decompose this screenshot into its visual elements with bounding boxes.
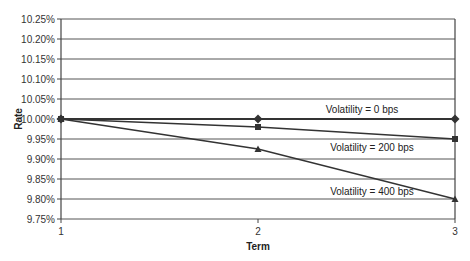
series-labels: Volatility = 0 bpsVolatility = 200 bpsVo… (326, 104, 414, 197)
series-label: Volatility = 200 bps (330, 142, 414, 153)
y-tick-label: 9.95% (27, 134, 55, 145)
x-tick-label: 2 (255, 226, 261, 237)
diamond-marker (451, 115, 460, 124)
series-diamond (57, 115, 460, 124)
y-tick-label: 10.15% (21, 54, 55, 65)
x-tick-label: 3 (452, 226, 458, 237)
y-tick-label: 10.10% (21, 74, 55, 85)
series-label: Volatility = 400 bps (330, 186, 414, 197)
series-label: Volatility = 0 bps (326, 104, 399, 115)
x-tick-label: 1 (58, 226, 64, 237)
square-marker (255, 124, 261, 130)
x-axis-title: Term (246, 241, 270, 252)
y-axis-ticks: 9.75%9.80%9.85%9.90%9.95%10.00%10.05%10.… (21, 14, 55, 225)
y-axis-title: Rate (13, 108, 24, 130)
y-tick-label: 10.05% (21, 94, 55, 105)
y-tick-label: 9.75% (27, 214, 55, 225)
square-marker (452, 136, 458, 142)
rate-vs-term-chart: 9.75%9.80%9.85%9.90%9.95%10.00%10.05%10.… (0, 0, 470, 261)
y-tick-label: 10.00% (21, 114, 55, 125)
y-tick-label: 10.20% (21, 34, 55, 45)
y-tick-label: 9.80% (27, 194, 55, 205)
diamond-marker (254, 115, 263, 124)
x-axis-ticks: 123 (58, 226, 458, 237)
y-tick-label: 9.90% (27, 154, 55, 165)
y-tick-label: 10.25% (21, 14, 55, 25)
y-tick-label: 9.85% (27, 174, 55, 185)
